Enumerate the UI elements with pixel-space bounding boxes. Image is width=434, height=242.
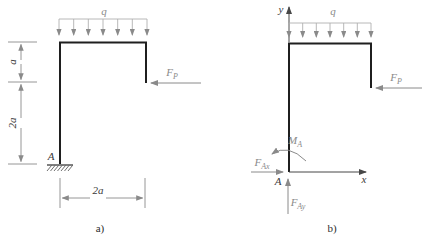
force-fp-label-a: FP (166, 67, 178, 78)
reaction-fay-label: FAy (291, 197, 306, 208)
support-a-label: A (48, 151, 55, 162)
figure-b-distributed-load-arrows (289, 23, 371, 37)
figure-a-distributed-load-arrows (59, 19, 147, 35)
reaction-fax-label: FAx (254, 157, 269, 168)
force-fp-label-b: FP (390, 72, 402, 83)
moment-ma-label: MA (288, 135, 302, 146)
figure-b-frame (289, 44, 371, 173)
origin-a-label: A (275, 176, 282, 187)
diagram-linework (0, 0, 434, 242)
figure-a-caption: a) (96, 223, 105, 234)
y-axis-label: y (279, 4, 284, 15)
x-axis-label: x (362, 174, 367, 185)
dimension-2a-bottom-label: 2a (93, 185, 104, 196)
dimension-2a-left-label: 2a (7, 118, 18, 129)
load-q-label-a: q (101, 6, 107, 17)
figure-a-fixed-support-hatch (47, 165, 73, 171)
frame-statics-figure: q FP A a 2a 2a a) y q FP MA FAx A x FAy … (0, 0, 434, 242)
load-q-label-b: q (330, 6, 336, 17)
dimension-a-upper-label: a (7, 59, 18, 65)
figure-b-caption: b) (327, 223, 336, 234)
figure-a-frame (60, 43, 147, 165)
